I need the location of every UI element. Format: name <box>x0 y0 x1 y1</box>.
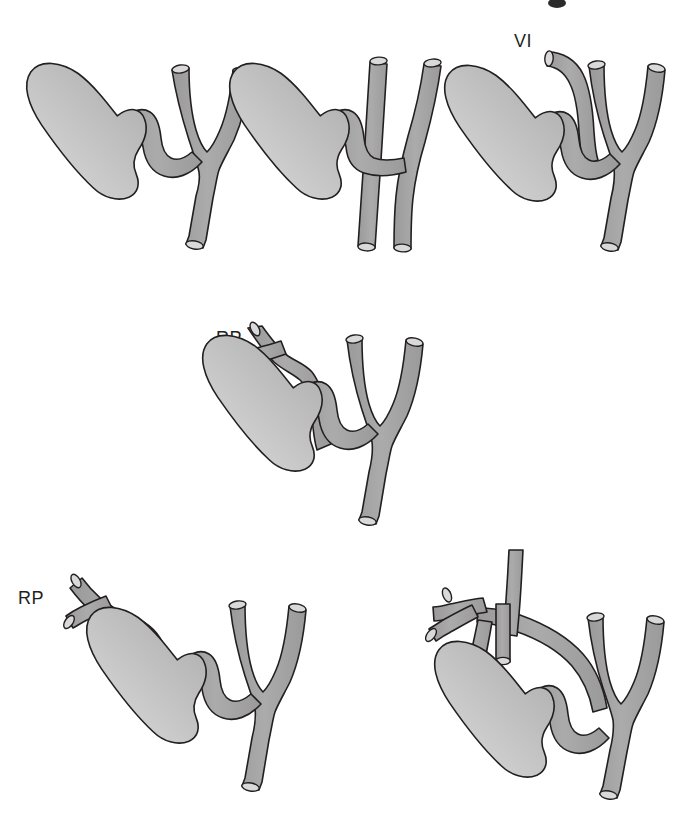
panel-label-vi: VI <box>514 31 532 51</box>
duct-end-cap <box>358 243 376 252</box>
figure-container: VI RP <box>0 0 684 824</box>
biliary-anatomy-figure: VI RP <box>0 0 684 824</box>
duct-end-cap <box>544 51 553 67</box>
panel-label-rp-bottom: RP <box>18 588 44 608</box>
duct-end-cap <box>394 244 412 253</box>
duct-end-cap <box>370 57 388 66</box>
